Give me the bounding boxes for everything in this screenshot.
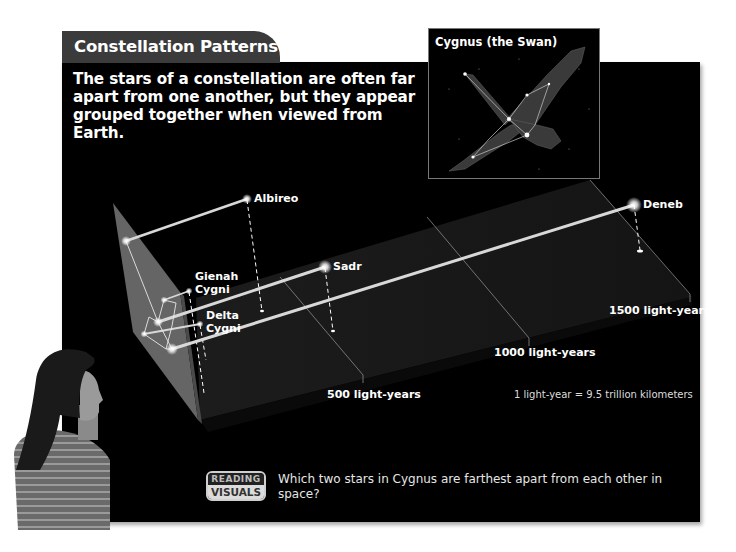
label-albireo: Albireo xyxy=(254,192,298,205)
label-deneb: Deneb xyxy=(643,198,683,211)
reading-visuals-question: Which two stars in Cygnus are farthest a… xyxy=(278,472,678,502)
label-1000-light-years: 1000 light-years xyxy=(494,346,596,359)
deneb-star xyxy=(626,197,642,213)
label-gienah-cygni: Gienah Cygni xyxy=(195,270,238,296)
albireo-star xyxy=(242,194,252,204)
distance-plane xyxy=(196,180,692,420)
albireo-sightline xyxy=(126,199,247,241)
label-delta-cygni: Delta Cygni xyxy=(206,309,241,335)
label-sadr: Sadr xyxy=(333,260,362,273)
label-500-light-years: 500 light-years xyxy=(327,388,421,401)
label-1500-light-years: 1500 light-years xyxy=(609,304,711,317)
delta-star xyxy=(197,321,204,328)
badge-visuals: VISUALS xyxy=(208,485,264,499)
girl-viewer-photo xyxy=(0,330,120,530)
light-year-conversion-note: 1 light-year = 9.5 trillion kilometers xyxy=(514,389,693,400)
inset-title: Cygnus (the Swan) xyxy=(435,35,557,49)
reading-visuals-badge: READING VISUALS xyxy=(206,471,266,501)
sadr-star xyxy=(318,260,332,274)
badge-reading: READING xyxy=(208,473,264,485)
swan-illustration xyxy=(429,29,600,179)
cygnus-inset: Cygnus (the Swan) xyxy=(428,28,600,179)
gienah-star xyxy=(186,288,193,295)
